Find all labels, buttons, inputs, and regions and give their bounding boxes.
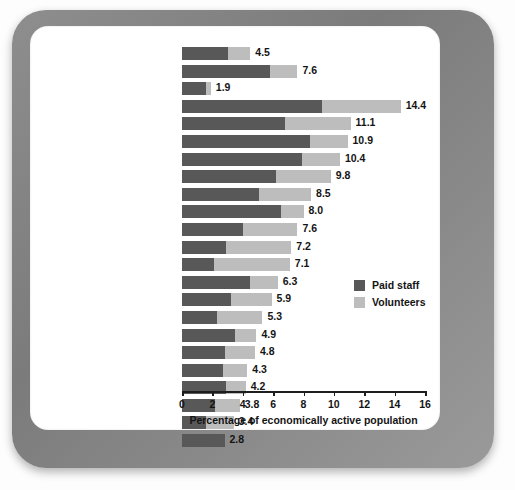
bar-value-label: 7.1 xyxy=(295,257,310,270)
legend-swatch-paid-staff-icon xyxy=(354,280,365,291)
bar-segment-paid-staff xyxy=(182,329,235,342)
x-axis-tick xyxy=(212,391,214,396)
bar-segment-paid-staff xyxy=(182,276,250,289)
stacked-bar xyxy=(182,276,278,289)
bar-segment-volunteers xyxy=(214,258,290,271)
stacked-bar xyxy=(182,100,401,113)
stacked-bar xyxy=(182,293,272,306)
x-axis-tick xyxy=(395,391,397,396)
bar-segment-volunteers xyxy=(223,364,247,377)
bar-segment-volunteers xyxy=(243,223,298,236)
bar-segment-paid-staff xyxy=(182,223,243,236)
bar-segment-paid-staff xyxy=(182,82,206,95)
bar-segment-paid-staff xyxy=(182,117,285,130)
x-axis-tick-label: 10 xyxy=(328,398,340,410)
bar-segment-volunteers xyxy=(225,346,255,359)
legend-swatch-volunteers-icon xyxy=(354,297,365,308)
legend-item-paid-staff: Paid staff xyxy=(354,279,425,291)
bar-segment-paid-staff xyxy=(182,205,281,218)
x-axis-tick xyxy=(304,391,306,396)
bar-segment-paid-staff xyxy=(182,170,276,183)
bar-value-label: 8.0 xyxy=(309,204,324,217)
bar-value-label: 1.9 xyxy=(216,81,231,94)
bar-segment-volunteers xyxy=(270,65,297,78)
bar-value-label: 4.5 xyxy=(255,46,270,59)
stacked-bar xyxy=(182,153,340,166)
stacked-bar xyxy=(182,135,348,148)
x-axis-tick-label: 16 xyxy=(419,398,431,410)
stacked-bar xyxy=(182,364,247,377)
bar-segment-volunteers xyxy=(235,329,256,342)
bar-value-label: 14.4 xyxy=(406,99,426,112)
bar-value-label: 4.3 xyxy=(252,363,267,376)
bar-segment-volunteers xyxy=(310,135,348,148)
bar-segment-paid-staff xyxy=(182,100,322,113)
bar-value-label: 10.4 xyxy=(345,152,365,165)
bar-segment-paid-staff xyxy=(182,153,302,166)
bar-value-label: 10.9 xyxy=(353,134,373,147)
stacked-bar-chart: 37 countries4.5Developed countries7.6Dev… xyxy=(0,0,515,490)
bar-value-label: 7.2 xyxy=(296,240,311,253)
bar-value-label: 4.8 xyxy=(260,345,275,358)
bar-segment-paid-staff xyxy=(182,47,228,60)
stacked-bar xyxy=(182,170,331,183)
stacked-bar xyxy=(182,47,250,60)
bar-segment-volunteers xyxy=(215,399,239,412)
stacked-bar xyxy=(182,258,290,271)
bar-segment-volunteers xyxy=(302,153,340,166)
bar-segment-volunteers xyxy=(259,188,311,201)
bar-segment-volunteers xyxy=(231,293,272,306)
stacked-bar xyxy=(182,311,262,324)
stacked-bar xyxy=(182,434,225,447)
x-axis-tick xyxy=(273,391,275,396)
bar-value-label: 6.3 xyxy=(283,275,298,288)
bar-value-label: 3.8 xyxy=(245,398,260,411)
bar-segment-paid-staff xyxy=(182,258,214,271)
bar-value-label: 5.9 xyxy=(277,292,292,305)
legend-item-volunteers: Volunteers xyxy=(354,296,425,308)
bar-segment-volunteers xyxy=(276,170,331,183)
bar-value-label: 9.8 xyxy=(336,169,351,182)
bar-segment-volunteers xyxy=(322,100,401,113)
x-axis-tick xyxy=(425,391,427,396)
stacked-bar xyxy=(182,188,311,201)
bar-segment-paid-staff xyxy=(182,364,223,377)
bar-segment-paid-staff xyxy=(182,135,310,148)
x-axis-tick xyxy=(182,391,184,396)
stacked-bar xyxy=(182,117,351,130)
x-axis-tick-label: 4 xyxy=(240,398,246,410)
bar-value-label: 5.3 xyxy=(267,310,282,323)
stacked-bar xyxy=(182,346,255,359)
bar-segment-volunteers xyxy=(228,47,251,60)
bar-segment-paid-staff xyxy=(182,241,226,254)
stacked-bar xyxy=(182,82,211,95)
x-axis-tick xyxy=(334,391,336,396)
stacked-bar xyxy=(182,329,256,342)
x-axis-tick-label: 14 xyxy=(389,398,401,410)
bar-segment-volunteers xyxy=(281,205,304,218)
stacked-bar xyxy=(182,223,297,236)
bar-value-label: 11.1 xyxy=(356,116,376,129)
bar-segment-volunteers xyxy=(285,117,350,130)
legend-label-paid-staff: Paid staff xyxy=(372,279,419,291)
stacked-bar xyxy=(182,205,304,218)
bar-segment-volunteers xyxy=(217,311,263,324)
bar-segment-paid-staff xyxy=(182,65,270,78)
bar-value-label: 4.9 xyxy=(261,328,276,341)
bar-segment-paid-staff xyxy=(182,311,217,324)
bar-value-label: 7.6 xyxy=(302,64,317,77)
bar-value-label: 2.8 xyxy=(230,433,245,446)
bar-segment-volunteers xyxy=(250,276,277,289)
chart-page: 37 countries4.5Developed countries7.6Dev… xyxy=(0,0,515,490)
x-axis-tick-label: 0 xyxy=(179,398,185,410)
stacked-bar xyxy=(182,65,297,78)
bar-segment-paid-staff xyxy=(182,346,225,359)
x-axis-tick xyxy=(364,391,366,396)
bar-value-label: 8.5 xyxy=(316,187,331,200)
bar-segment-paid-staff xyxy=(182,434,225,447)
bar-segment-volunteers xyxy=(206,82,211,95)
bar-segment-volunteers xyxy=(226,241,291,254)
stacked-bar xyxy=(182,241,291,254)
x-axis-tick-label: 12 xyxy=(358,398,370,410)
legend-label-volunteers: Volunteers xyxy=(372,296,425,308)
